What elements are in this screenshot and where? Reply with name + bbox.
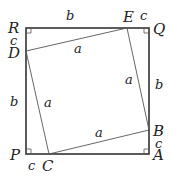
label-C: C: [42, 157, 54, 175]
diagram: R Q D E B A P C b c c b b c c a a a a: [0, 0, 171, 177]
label-Q: Q: [153, 20, 165, 38]
segment-CB-a: a: [95, 125, 103, 140]
segment-top-b: b: [66, 8, 74, 23]
segment-left-c: c: [10, 33, 18, 48]
inner-square: [26, 28, 149, 154]
segment-EB-a: a: [125, 72, 133, 87]
label-P: P: [9, 146, 21, 164]
label-E: E: [122, 8, 134, 26]
segment-right-b: b: [155, 77, 163, 92]
segment-left-b: b: [10, 94, 18, 109]
segment-bottom-c: c: [28, 158, 36, 173]
segment-right-c: c: [155, 136, 163, 151]
segment-DC-a: a: [44, 95, 52, 110]
segment-DE-a: a: [74, 41, 82, 56]
segment-top-c: c: [140, 8, 148, 23]
